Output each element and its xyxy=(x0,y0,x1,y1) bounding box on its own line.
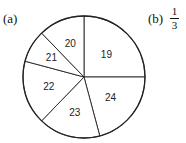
slice-label: 24 xyxy=(105,92,117,103)
slice-label: 22 xyxy=(43,81,55,92)
slice-label: 20 xyxy=(65,38,77,49)
slice-label: 19 xyxy=(101,49,113,60)
slice-label: 21 xyxy=(46,52,58,63)
slice-label: 23 xyxy=(69,107,81,118)
pie-slice-19 xyxy=(84,16,145,77)
pie-chart: 192423222120 xyxy=(0,0,186,143)
